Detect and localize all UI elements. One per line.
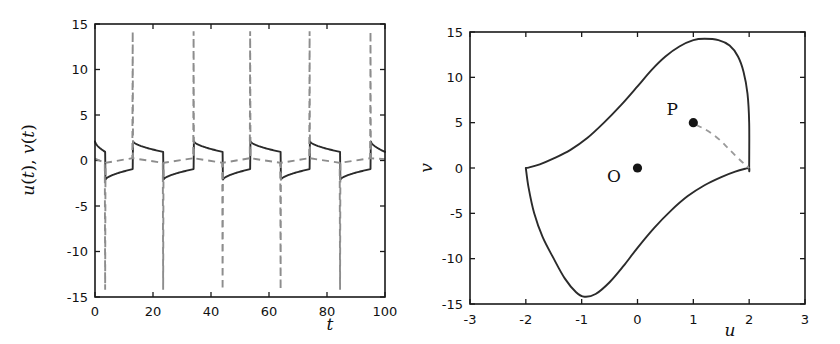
y-tick-label: -10 (442, 251, 463, 266)
y-tick-label: -10 (67, 244, 88, 259)
phase-portrait-annotations: OP (607, 99, 698, 186)
phase-portrait-x-axis-title: u (725, 320, 736, 340)
y-tick-label: 5 (455, 115, 463, 130)
time-series-axes-box (95, 24, 385, 297)
time-series-y-axis-title: u(t), v(t) (18, 124, 38, 196)
y-tick-label: 5 (80, 108, 88, 123)
u-of-t-curve (95, 141, 385, 179)
annotation-marker-p (689, 118, 698, 127)
time-series-plot: 020406080100151050-5-10-15 t u(t), v(t) (0, 0, 420, 344)
y-tick-label: -5 (450, 206, 463, 221)
y-tick-label: 0 (455, 161, 463, 176)
time-series-x-axis-title: t (327, 314, 334, 334)
x-tick-label: 100 (373, 304, 398, 319)
phase-portrait-tick-labels: -3-2-10123151050-5-10-15 (442, 25, 809, 328)
x-tick-label: 40 (203, 304, 220, 319)
transient-trajectory (696, 125, 749, 168)
y-tick-label: 15 (446, 25, 463, 40)
x-tick-label: 20 (145, 304, 162, 319)
x-tick-label: 1 (689, 312, 697, 327)
phase-portrait-y-axis-title: v (420, 163, 436, 173)
y-tick-label: -5 (75, 199, 88, 214)
y-tick-label: 10 (446, 70, 463, 85)
time-series-tick-labels: 020406080100151050-5-10-15 (67, 17, 398, 320)
x-tick-label: -2 (519, 312, 532, 327)
v-of-t-curve (95, 31, 385, 289)
x-tick-label: 0 (91, 304, 99, 319)
phase-portrait-plot: -3-2-10123151050-5-10-15 OP u v (420, 0, 840, 344)
x-tick-label: 2 (745, 312, 753, 327)
x-tick-label: 60 (261, 304, 278, 319)
time-series-ticks (95, 24, 385, 297)
time-series-curves (95, 31, 385, 289)
x-tick-label: 3 (801, 312, 809, 327)
x-tick-label: -1 (575, 312, 588, 327)
y-title-v: v (18, 144, 38, 154)
annotation-marker-o (633, 163, 642, 172)
time-series-panel: 020406080100151050-5-10-15 t u(t), v(t) (0, 0, 420, 344)
y-tick-label: 10 (71, 62, 88, 77)
figure-container: 020406080100151050-5-10-15 t u(t), v(t) … (0, 0, 840, 344)
x-tick-label: -3 (464, 312, 477, 327)
annotation-label-p: P (666, 99, 677, 119)
phase-portrait-panel: -3-2-10123151050-5-10-15 OP u v (420, 0, 840, 344)
annotation-label-o: O (607, 166, 621, 186)
y-tick-label: -15 (442, 297, 463, 312)
y-tick-label: 0 (80, 153, 88, 168)
y-title-u: u (18, 185, 38, 196)
svg-text:u(t), v(t): u(t), v(t) (18, 124, 38, 196)
y-tick-label: -15 (67, 290, 88, 305)
y-tick-label: 15 (71, 17, 88, 32)
x-tick-label: 0 (633, 312, 641, 327)
